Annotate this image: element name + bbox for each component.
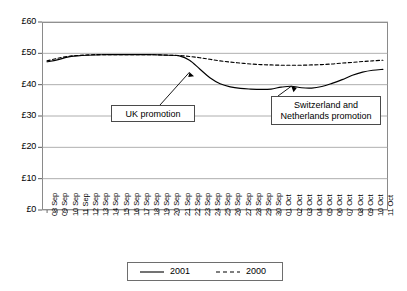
y-axis-label: £10 bbox=[2, 173, 36, 183]
x-axis-label: 18 Sep bbox=[152, 193, 161, 216]
x-axis-label: 28 Sep bbox=[254, 193, 263, 216]
x-axis-label: 07 Oct bbox=[345, 195, 354, 217]
x-axis-label: 08 Sep bbox=[50, 193, 59, 216]
x-axis-label: 03 Oct bbox=[305, 195, 314, 217]
x-axis-label: 25 Sep bbox=[223, 193, 232, 216]
chart-graphics bbox=[0, 0, 407, 291]
x-axis-label: 04 Oct bbox=[315, 195, 324, 217]
x-axis-label: 22 Sep bbox=[193, 193, 202, 216]
x-axis-label: 13 Sep bbox=[101, 193, 110, 216]
x-axis-label: 11 Oct bbox=[386, 195, 395, 216]
x-axis-label: 06 Oct bbox=[335, 195, 344, 217]
x-axis-label: 27 Sep bbox=[244, 193, 253, 216]
legend-label-2001: 2001 bbox=[170, 266, 190, 276]
y-axis-label: £50 bbox=[2, 47, 36, 57]
line-chart: £0£10£20£30£40£50£60 08 Sep09 Sep10 Sep1… bbox=[0, 0, 407, 291]
x-axis-label: 15 Sep bbox=[122, 193, 131, 216]
legend-label-2000: 2000 bbox=[246, 266, 266, 276]
x-axis-label: 26 Sep bbox=[233, 193, 242, 216]
x-axis-label: 14 Sep bbox=[111, 193, 120, 216]
y-axis-label: £0 bbox=[2, 204, 36, 214]
x-axis-label: 24 Sep bbox=[213, 193, 222, 216]
x-axis-label: 30 Sep bbox=[274, 193, 283, 216]
annotation-swiss-line2: Netherlands promotion bbox=[280, 111, 371, 121]
x-axis-label: 19 Sep bbox=[162, 193, 171, 216]
x-axis-label: 02 Oct bbox=[295, 195, 304, 217]
x-axis-label: 29 Sep bbox=[264, 193, 273, 216]
legend: 2001 2000 bbox=[127, 262, 283, 281]
x-axis-label: 09 Sep bbox=[60, 193, 69, 216]
x-axis-label: 10 Sep bbox=[71, 193, 80, 216]
annotation-swiss-line1: Switzerland and bbox=[294, 100, 358, 110]
y-axis-label: £40 bbox=[2, 79, 36, 89]
y-axis-label: £30 bbox=[2, 110, 36, 120]
annotation-uk-promotion: UK promotion bbox=[111, 105, 195, 122]
leader-line-uk bbox=[160, 72, 190, 105]
y-axis-label: £60 bbox=[2, 16, 36, 26]
x-axis-label: 21 Sep bbox=[183, 193, 192, 216]
x-axis-label: 05 Oct bbox=[325, 195, 334, 217]
x-axis-label: 09 Oct bbox=[366, 195, 375, 217]
x-axis-label: 12 Sep bbox=[91, 193, 100, 216]
x-axis-label: 08 Oct bbox=[356, 195, 365, 217]
x-axis-label: 10 Oct bbox=[376, 195, 385, 217]
x-axis-label: 20 Sep bbox=[172, 193, 181, 216]
x-axis-label: 23 Sep bbox=[203, 193, 212, 216]
y-axis-ticks bbox=[38, 22, 42, 210]
x-axis-label: 16 Sep bbox=[132, 193, 141, 216]
annotation-switzerland-netherlands-promotion: Switzerland and Netherlands promotion bbox=[271, 96, 381, 125]
annotation-uk-promotion-text: UK promotion bbox=[125, 109, 180, 119]
data-series-layer bbox=[47, 55, 383, 90]
x-axis-label: 01 Oct bbox=[284, 195, 293, 217]
x-axis-label: 11 Sep bbox=[81, 193, 90, 216]
x-axis-label: 17 Sep bbox=[142, 193, 151, 216]
y-axis-label: £20 bbox=[2, 141, 36, 151]
series-line-2000 bbox=[47, 55, 383, 66]
